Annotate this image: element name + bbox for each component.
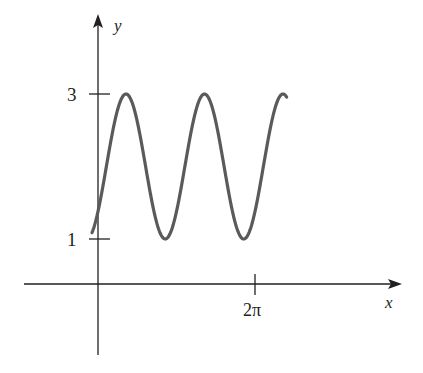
y-tick-label-3: 3 [67,84,77,105]
x-axis-label: x [384,293,393,312]
x-tick-label-2pi: 2π [243,300,261,320]
sinusoid-curve [92,94,287,239]
y-axis-label: y [112,16,122,35]
sinusoid-chart: y x 3 1 2π [0,0,423,373]
y-tick-label-1: 1 [67,229,77,250]
